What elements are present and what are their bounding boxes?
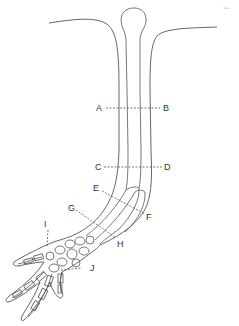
label-i: I bbox=[44, 219, 47, 229]
body-surface-left bbox=[49, 19, 119, 90]
elbow-joint bbox=[126, 187, 145, 192]
label-h: H bbox=[117, 239, 124, 249]
label-c: C bbox=[95, 162, 102, 172]
label-g: G bbox=[68, 203, 75, 213]
limb-outline-left bbox=[60, 90, 119, 240]
limb-diagram: · ʟ ʟ. bbox=[0, 0, 239, 326]
label-e: E bbox=[93, 183, 99, 193]
label-j: J bbox=[90, 263, 95, 273]
corner-mark: · ʟ ʟ. bbox=[222, 5, 230, 10]
pointer-line-j bbox=[61, 268, 82, 270]
hand-outline bbox=[6, 240, 100, 321]
label-f: F bbox=[146, 212, 152, 222]
label-b: B bbox=[163, 103, 169, 113]
section-line-gh bbox=[76, 210, 116, 238]
digit-bones bbox=[12, 254, 63, 317]
humerus-bone bbox=[121, 8, 146, 190]
label-d: D bbox=[164, 162, 171, 172]
body-surface-right bbox=[150, 27, 217, 90]
label-a: A bbox=[96, 103, 102, 113]
carpal-bones bbox=[46, 236, 94, 272]
